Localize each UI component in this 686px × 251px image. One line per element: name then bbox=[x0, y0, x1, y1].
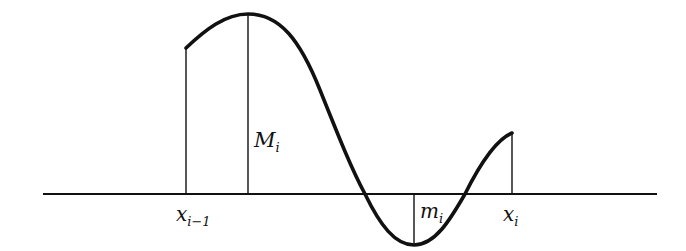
label-x-i-minus-1: xi−1 bbox=[176, 202, 211, 229]
function-curve bbox=[186, 14, 512, 245]
label-M-i: Mi bbox=[253, 128, 280, 155]
label-x-i: xi bbox=[503, 202, 518, 229]
riemann-sum-diagram: xi−1 Mi mi xi bbox=[0, 0, 686, 251]
label-m-i: mi bbox=[420, 199, 443, 226]
